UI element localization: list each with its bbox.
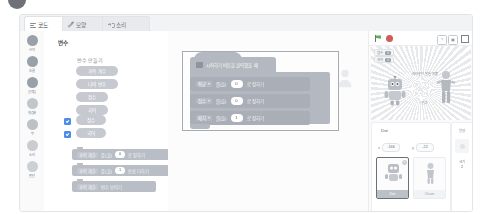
- category-move[interactable]: 움직임: [24, 77, 40, 94]
- y-label: y: [412, 145, 414, 150]
- value-input[interactable]: 0: [231, 97, 243, 105]
- chevron-down-icon: [208, 100, 210, 102]
- category-label: 붓: [25, 131, 40, 136]
- flag-icon: [196, 62, 203, 68]
- variable-dropdown[interactable]: 점수: [196, 98, 212, 104]
- category-flow[interactable]: 흐름: [24, 56, 40, 73]
- variable-chip[interactable]: 과목 개수: [76, 66, 118, 76]
- category-brush[interactable]: 붓: [24, 119, 40, 136]
- capture-icon[interactable]: ▣: [448, 35, 458, 45]
- row-mid-text: 를(을): [216, 115, 227, 121]
- variable-chip[interactable]: 국어: [76, 105, 108, 115]
- variable-dropdown[interactable]: 평균: [196, 81, 212, 87]
- category-dot-icon: [27, 77, 38, 88]
- direction-label: 방향: [452, 128, 472, 133]
- variable-dropdown[interactable]: 배치: [196, 115, 212, 121]
- variable-chip[interactable]: 점수: [76, 92, 108, 102]
- person-character[interactable]: [435, 70, 457, 104]
- category-dot-icon: [27, 140, 38, 151]
- x-value[interactable]: -166: [382, 143, 400, 152]
- palette-block-value-input[interactable]: 1: [115, 167, 125, 173]
- size-property: 크기 2: [452, 159, 472, 169]
- direction-property: 방향: [452, 128, 472, 133]
- category-label: 소리: [25, 152, 40, 157]
- category-label: 생김새: [25, 110, 40, 115]
- robot-character[interactable]: [382, 76, 408, 106]
- object-properties-column: 방향 크기 2: [451, 122, 473, 212]
- x-coordinate-field[interactable]: x -166: [378, 143, 400, 152]
- object-thumbnail-selected[interactable]: × Dot: [376, 157, 409, 199]
- palette-block-set-variable[interactable]: 과목 개수 를(을) 0 로 정하기: [72, 149, 170, 160]
- object-name-label: Dot: [381, 128, 388, 133]
- entry-editor-window: 코드 모양 소리 시작 흐름 움직임: [19, 14, 473, 212]
- block-set-variable-row[interactable]: 배치 를(을) 1 로 정하기: [190, 111, 310, 125]
- variable-chip[interactable]: 국어: [76, 128, 106, 138]
- block-set-variable-row[interactable]: 점수 를(을) 0 로 정하기: [190, 94, 310, 108]
- fullscreen-icon[interactable]: [461, 35, 469, 43]
- monitor-name: 국어: [377, 57, 383, 62]
- variable-chip[interactable]: 점수: [76, 115, 106, 125]
- object-thumbnail-list: × Dot: [376, 157, 446, 197]
- screenshot-root: 코드 모양 소리 시작 흐름 움직임: [0, 0, 481, 214]
- palette-block-mid-text: 를(을): [101, 152, 112, 158]
- chevron-down-icon: [208, 117, 210, 119]
- category-sound[interactable]: 소리: [24, 140, 40, 157]
- variable-dropdown-label: 점수: [198, 98, 206, 104]
- robot-thumbnail-icon: [377, 161, 409, 185]
- value-input[interactable]: 0: [231, 80, 243, 88]
- category-judge[interactable]: 판단: [24, 161, 40, 178]
- category-dot-icon: [27, 98, 38, 109]
- y-coordinate-field[interactable]: y -22: [412, 143, 434, 152]
- palette-block-show-variable[interactable]: 과목 개수 변수 보이기: [72, 181, 156, 192]
- palette-block-tail-text: 만큼 더하기: [128, 168, 149, 174]
- block-set-variable-row[interactable]: 평균 를(을) 0 로 정하기: [190, 77, 310, 91]
- hat-block-label: 시작하기 버튼을 클릭했을 때: [206, 62, 258, 68]
- category-label: 판단: [25, 173, 40, 178]
- value-input[interactable]: 1: [231, 114, 243, 122]
- category-dot-icon: [27, 161, 38, 172]
- code-workspace[interactable]: 시작하기 버튼을 클릭했을 때 평균 를(을) 0 로 정하기 점수 를(을) …: [168, 31, 368, 211]
- category-label: 시작: [25, 47, 40, 52]
- row-tail-text: 로 정하기: [247, 98, 264, 104]
- monitor-value: 0: [385, 51, 391, 55]
- x-label: x: [378, 145, 380, 150]
- palette-block-tail-text: 로 정하기: [128, 152, 145, 158]
- object-thumbnail-label: Dot: [377, 190, 408, 198]
- palette-block-change-variable[interactable]: 과목 개수 를(을) 1 만큼 더하기: [72, 165, 178, 176]
- category-dot-icon: [27, 56, 38, 67]
- stop-button-icon[interactable]: [386, 35, 393, 42]
- brush-icon: [68, 22, 74, 28]
- tab-bar: 코드 모양 소리: [20, 15, 472, 32]
- person-thumbnail-icon: [414, 161, 446, 185]
- palette-block-variable-dropdown[interactable]: 과목 개수: [77, 152, 98, 158]
- palette-block-mid-text: 를(을): [101, 168, 112, 174]
- tab-sound[interactable]: 소리: [102, 16, 150, 32]
- stage-canvas[interactable]: 점수 0 국어 0 여러분이 만든 작품 안녕!: [371, 46, 471, 120]
- create-variable-label[interactable]: 변수 만들기: [77, 56, 103, 63]
- palette-block-value-input[interactable]: 0: [115, 151, 125, 157]
- direction-dial[interactable]: [455, 139, 469, 153]
- speaker-icon: [108, 22, 114, 28]
- variable-visible-checkbox[interactable]: [64, 118, 71, 125]
- category-dot-icon: [27, 119, 38, 130]
- green-flag-icon[interactable]: [375, 35, 382, 42]
- help-icon[interactable]: ?: [437, 35, 447, 45]
- palette-block-variable-dropdown[interactable]: 과목 개수: [77, 168, 98, 174]
- y-value[interactable]: -22: [416, 143, 434, 152]
- size-label: 크기: [452, 159, 472, 164]
- tab-code-label: 코드: [38, 21, 48, 29]
- workspace-sprite-icon: [334, 67, 356, 89]
- variable-monitor: 국어 0: [374, 56, 394, 63]
- category-dot-icon: [27, 35, 38, 46]
- category-label: 흐름: [25, 68, 40, 73]
- size-value[interactable]: 2: [452, 165, 472, 169]
- object-thumbnail[interactable]: Cham: [413, 157, 446, 199]
- category-start[interactable]: 시작: [24, 35, 40, 52]
- category-looks[interactable]: 생김새: [24, 98, 40, 115]
- variable-visible-checkbox[interactable]: [64, 131, 71, 138]
- palette-block-tail-text: 변수 보이기: [101, 184, 122, 190]
- palette-block-variable-dropdown[interactable]: 과목 개수: [77, 184, 98, 190]
- monitor-value: 0: [385, 58, 391, 62]
- variable-chip[interactable]: 나의 변수: [76, 79, 118, 89]
- hat-block-when-start-clicked[interactable]: 시작하기 버튼을 클릭했을 때: [190, 57, 276, 73]
